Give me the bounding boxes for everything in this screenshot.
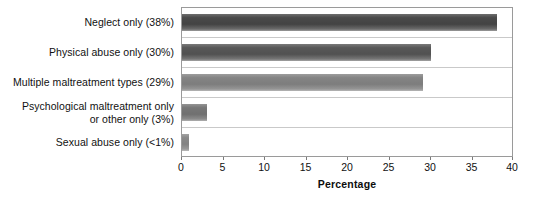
bar-physical-abuse-only [182,44,431,61]
category-labels-axis: Neglect only (38%) Physical abuse only (… [0,7,178,157]
bar-psychological-maltreatment-or-other-only [182,104,207,121]
bar-sexual-abuse-only [182,134,189,151]
plot-area [181,7,513,157]
bar-fill [182,74,423,91]
bar-multiple-maltreatment-types [182,74,423,91]
row-separator [182,37,512,38]
x-tick-label: 30 [424,161,436,173]
bar-fill [182,14,497,31]
x-tick-mark [264,157,265,160]
category-label: Psychological maltreatment only or other… [0,100,174,125]
row-separator [182,97,512,98]
category-label: Multiple maltreatment types (29%) [0,76,174,89]
bar-fill [182,134,189,151]
x-tick-label: 40 [506,161,518,173]
x-tick-mark [430,157,431,160]
row-separator [182,127,512,128]
category-label: Sexual abuse only (<1%) [0,136,174,149]
x-tick-mark [389,157,390,160]
x-tick-label: 35 [466,161,478,173]
bar-fill [182,104,207,121]
category-label: Neglect only (38%) [0,16,174,29]
x-axis: 0 5 10 15 20 25 30 35 40 [181,157,513,179]
row-separator [182,67,512,68]
bar-fill [182,44,431,61]
x-tick-mark [347,157,348,160]
x-tick-label: 0 [178,161,184,173]
x-tick-label: 10 [258,161,270,173]
x-tick-label: 15 [300,161,312,173]
x-tick-mark [181,157,182,160]
x-tick-mark [223,157,224,160]
x-tick-label: 5 [220,161,226,173]
x-tick-mark [512,157,513,160]
x-tick-mark [472,157,473,160]
x-tick-mark [306,157,307,160]
horizontal-bar-chart: Neglect only (38%) Physical abuse only (… [0,0,537,202]
category-label: Physical abuse only (30%) [0,46,174,59]
bar-neglect-only [182,14,497,31]
x-tick-label: 25 [383,161,395,173]
x-axis-title: Percentage [181,178,513,190]
x-tick-label: 20 [341,161,353,173]
